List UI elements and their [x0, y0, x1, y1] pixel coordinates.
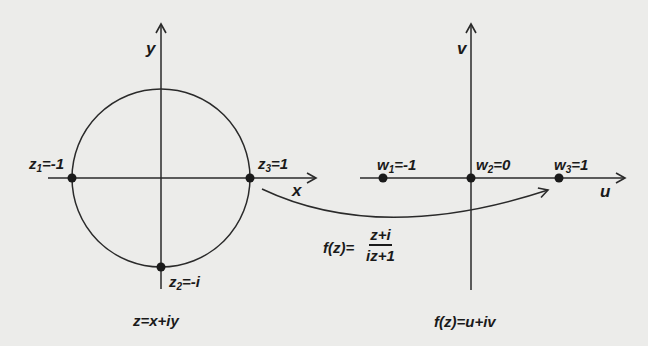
mapping-formula-fraction: z+i iz+1: [366, 227, 395, 263]
mapping-numerator: z+i: [369, 227, 391, 246]
label-z1: z1=-1: [29, 156, 64, 174]
w-plane-caption: f(z)=u+iv: [434, 314, 496, 329]
label-z3: z3=1: [258, 156, 288, 174]
x-axis-label: x: [292, 182, 301, 199]
mapping-formula-lhs: f(z)=: [323, 240, 354, 255]
mobius-mapping-diagram: y x z1=-1 z3=1 z2=-i z=x+iy v u w1=-1 w2…: [0, 0, 648, 346]
y-axis-label: y: [146, 40, 155, 57]
point-z2: [157, 263, 166, 272]
mapping-arrow: [262, 189, 548, 217]
point-w2: [467, 174, 476, 183]
v-axis-label: v: [457, 40, 466, 57]
label-w2: w2=0: [476, 157, 510, 175]
point-z3: [246, 174, 255, 183]
label-w1: w1=-1: [377, 157, 416, 175]
label-w3: w3=1: [554, 157, 588, 175]
z-plane-caption: z=x+iy: [133, 313, 179, 328]
mapping-denominator: iz+1: [366, 246, 395, 263]
point-z1: [68, 174, 77, 183]
diagram-graphics: [0, 0, 648, 346]
label-z2: z2=-i: [169, 274, 200, 292]
u-axis-label: u: [600, 183, 610, 200]
